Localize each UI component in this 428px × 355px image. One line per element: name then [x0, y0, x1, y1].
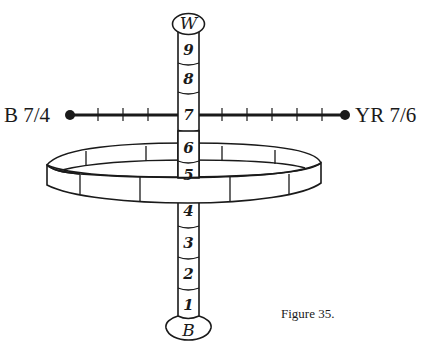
- value-3: 3: [183, 234, 193, 252]
- svg-text:5: 5: [183, 166, 193, 184]
- left-endpoint-label: B 7/4: [4, 103, 51, 127]
- white-cap: W: [173, 13, 205, 35]
- value-1: 1: [183, 296, 193, 314]
- right-endpoint-label: YR 7/6: [355, 103, 416, 127]
- value-4: 4: [183, 202, 193, 220]
- white-cap-label: W: [180, 13, 199, 33]
- value-9: 9: [183, 41, 194, 59]
- right-endpoint-dot: [340, 110, 350, 120]
- value-8: 8: [183, 70, 194, 88]
- left-endpoint-dot: [65, 110, 75, 120]
- value-2: 2: [182, 265, 193, 283]
- black-cap: B: [166, 316, 211, 340]
- chroma-axis: B 7/4 YR 7/6: [4, 103, 416, 127]
- value-7: 7: [183, 106, 194, 124]
- color-solid-diagram: B 7/4 YR 7/6 9 8 7 6 5 4 3 2 1: [0, 0, 428, 355]
- svg-text:6: 6: [183, 139, 194, 157]
- black-cap-label: B: [181, 320, 195, 340]
- figure-caption: Figure 35.: [281, 306, 334, 321]
